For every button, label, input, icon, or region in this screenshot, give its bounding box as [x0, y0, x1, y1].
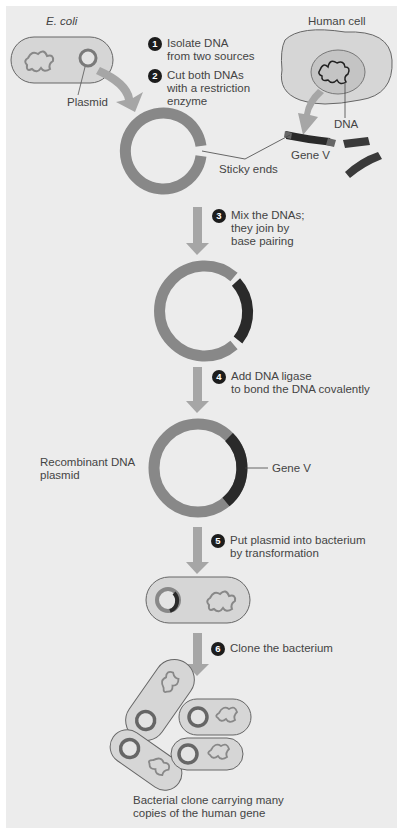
step-text: Mix the DNAs; they join by base pairing	[231, 209, 305, 248]
step-number-badge: 4	[212, 370, 226, 384]
cut-plasmid-icon	[125, 113, 201, 189]
step-1: 1 Isolate DNA from two sources	[148, 37, 255, 63]
step-text: Isolate DNA from two sources	[167, 37, 255, 63]
step-number-badge: 6	[211, 642, 225, 656]
human-cell-label: Human cell	[308, 15, 366, 28]
gene-v-label: Gene V	[291, 149, 330, 162]
step-text: Clone the bacterium	[230, 642, 333, 655]
dna-label: DNA	[334, 118, 358, 131]
step-2: 2 Cut both DNAs with a restriction enzym…	[148, 69, 250, 108]
step-text: Put plasmid into bacterium by transforma…	[230, 534, 366, 560]
annealed-plasmid-icon	[160, 266, 248, 356]
caption: Bacterial clone carrying many copies of …	[133, 794, 284, 820]
step-4: 4 Add DNA ligase to bond the DNA covalen…	[212, 370, 370, 396]
down-arrow-icon	[186, 207, 209, 255]
sticky-ends-pointer	[202, 135, 290, 159]
bacterial-clone-icon	[103, 652, 251, 797]
gene-v-recombinant-label: Gene V	[272, 462, 311, 475]
human-cell-icon	[281, 30, 392, 118]
step-number-badge: 3	[212, 209, 226, 223]
step-number-badge: 1	[148, 37, 162, 51]
recombinant-plasmid-label: Recombinant DNA plasmid	[40, 456, 135, 482]
down-arrow-icon	[186, 367, 209, 413]
step-number-badge: 2	[148, 69, 162, 83]
ecoli-cell-icon	[11, 37, 113, 95]
step-text: Add DNA ligase to bond the DNA covalentl…	[231, 370, 370, 396]
down-arrow-icon	[186, 527, 209, 574]
ecoli-label: E. coli	[46, 15, 77, 28]
step-5: 5 Put plasmid into bacterium by transfor…	[211, 534, 366, 560]
transformed-bacterium-icon	[146, 577, 250, 623]
step-text: Cut both DNAs with a restriction enzyme	[167, 69, 250, 108]
sticky-ends-label: Sticky ends	[219, 163, 278, 176]
step-number-badge: 5	[211, 534, 225, 548]
step-6: 6 Clone the bacterium	[211, 642, 333, 656]
step-3: 3 Mix the DNAs; they join by base pairin…	[212, 209, 305, 248]
plasmid-label: Plasmid	[67, 96, 108, 109]
recombinant-plasmid-icon	[154, 424, 242, 512]
